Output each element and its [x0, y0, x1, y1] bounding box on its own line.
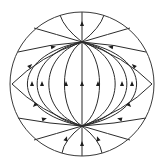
outer-line-bottom-left-2	[34, 126, 82, 140]
outer-line-bottom-right-2	[82, 126, 130, 140]
arrow-up	[120, 81, 124, 86]
flow-line-left-vertex-bottom	[12, 84, 82, 126]
inner-flow-line-right	[82, 42, 137, 126]
arrow-up	[130, 81, 134, 86]
flow-line-right-vertex-top	[82, 42, 152, 84]
arrow-up	[80, 21, 84, 26]
flow-line-left-vertex-top	[12, 42, 82, 84]
outer-line-top-right-3	[82, 15, 104, 42]
outer-line-top-right-2	[82, 28, 130, 42]
inner-flow-line-left	[37, 42, 82, 126]
outer-line-top-left-3	[60, 15, 82, 42]
arrow	[117, 116, 123, 121]
outer-line-top-right-1	[82, 42, 146, 52]
outer-line-top-left-2	[34, 28, 82, 42]
inner-flow-line-left	[27, 42, 82, 126]
arrow-up	[80, 141, 84, 146]
phase-portrait-diagram	[0, 0, 163, 167]
arrow-up	[80, 81, 84, 86]
inner-flow-line-right	[82, 42, 127, 126]
arrow	[42, 116, 48, 121]
arrow	[95, 135, 100, 141]
outer-line-top-left-1	[18, 42, 82, 52]
flow-line-right-vertex-bottom	[82, 84, 152, 126]
arrow-up	[40, 81, 44, 86]
arrow	[31, 102, 37, 108]
arrow	[126, 102, 132, 108]
arrow	[63, 135, 68, 141]
arrow-up	[30, 81, 34, 86]
